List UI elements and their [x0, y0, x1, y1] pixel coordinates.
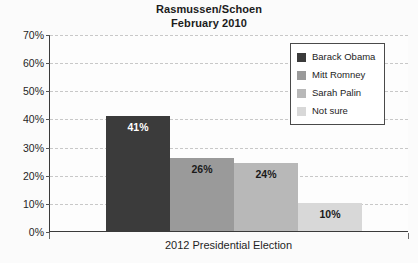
y-axis-tick-mark	[46, 119, 50, 120]
y-axis-tick-label: 20%	[0, 170, 44, 182]
legend-item[interactable]: Not sure	[297, 103, 378, 119]
bar[interactable]: 41%	[106, 116, 170, 231]
chart-legend: Barack ObamaMitt RomneySarah PalinNot su…	[290, 43, 385, 125]
bar-value-label: 24%	[234, 168, 298, 180]
y-axis-tick-mark	[46, 63, 50, 64]
y-axis-tick-mark	[46, 148, 50, 149]
bar[interactable]: 24%	[234, 163, 298, 231]
chart-title: Rasmussen/Schoen February 2010	[0, 3, 418, 30]
chart-title-line1: Rasmussen/Schoen	[156, 3, 262, 15]
legend-item[interactable]: Sarah Palin	[297, 85, 378, 101]
legend-item[interactable]: Mitt Romney	[297, 67, 378, 83]
gridline	[50, 35, 408, 36]
bar-value-label: 10%	[298, 208, 362, 220]
x-axis-edge-tick	[408, 233, 409, 239]
legend-item-label: Sarah Palin	[312, 88, 361, 98]
bar-value-label: 26%	[170, 163, 234, 175]
y-axis-tick-label: 30%	[0, 142, 44, 154]
bar-chart: Rasmussen/Schoen February 2010 70%60%50%…	[0, 0, 418, 263]
legend-item-label: Not sure	[312, 106, 348, 116]
y-axis-tick-mark	[46, 176, 50, 177]
legend-swatch-icon	[297, 89, 306, 98]
bar[interactable]: 26%	[170, 158, 234, 231]
y-axis-tick-label: 60%	[0, 57, 44, 69]
y-axis-tick-mark	[46, 35, 50, 36]
y-axis-tick-mark	[46, 204, 50, 205]
y-axis-tick-label: 10%	[0, 198, 44, 210]
y-axis-tick-mark	[46, 91, 50, 92]
bar[interactable]: 10%	[298, 203, 362, 231]
y-axis-tick-label: 50%	[0, 85, 44, 97]
gridline	[50, 148, 408, 149]
legend-item[interactable]: Barack Obama	[297, 49, 378, 65]
legend-item-label: Mitt Romney	[312, 70, 365, 80]
y-axis-tick-label: 40%	[0, 113, 44, 125]
bar-value-label: 41%	[106, 121, 170, 133]
chart-title-line2: February 2010	[0, 17, 418, 31]
x-axis-label: 2012 Presidential Election	[49, 239, 408, 251]
legend-swatch-icon	[297, 107, 306, 116]
y-axis-tick-label: 70%	[0, 29, 44, 41]
legend-swatch-icon	[297, 53, 306, 62]
legend-swatch-icon	[297, 71, 306, 80]
y-axis: 70%60%50%40%30%20%10%0%	[0, 0, 44, 263]
y-axis-tick-label: 0%	[0, 226, 44, 238]
legend-item-label: Barack Obama	[312, 52, 375, 62]
x-axis-edge-tick	[49, 233, 50, 239]
